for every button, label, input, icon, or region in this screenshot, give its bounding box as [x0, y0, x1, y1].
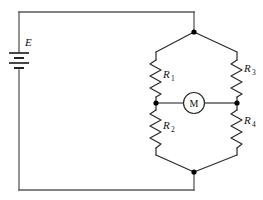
wire-apex-to-right-branch — [194, 32, 237, 52]
bridge-bottom-diagonals — [156, 155, 237, 172]
resistor-R3 — [231, 52, 242, 103]
resistor-R1 — [150, 52, 161, 103]
node-top-apex — [191, 29, 196, 34]
resistor-R1-label: R — [162, 68, 170, 80]
battery-label: E — [24, 36, 32, 48]
resistor-R2-zigzag — [150, 110, 161, 148]
bridge-top-diagonals — [156, 32, 237, 52]
meter-label: M — [190, 98, 199, 109]
wire-left-branch-to-bottom-apex — [156, 155, 194, 172]
resistor-R2-subscript: 2 — [171, 125, 175, 134]
resistor-R4-label: R — [243, 114, 251, 126]
resistor-R3-subscript: 3 — [252, 68, 256, 77]
resistor-R4 — [231, 103, 242, 155]
resistor-R3-zigzag — [231, 60, 242, 97]
node-bridge-left — [153, 100, 158, 105]
outer-loop-wires — [19, 12, 194, 190]
resistor-R4-zigzag — [231, 110, 242, 148]
resistor-R1-zigzag — [150, 60, 161, 97]
resistor-R4-subscript: 4 — [252, 120, 256, 129]
battery-symbol — [9, 53, 29, 68]
node-bottom-apex — [191, 169, 196, 174]
resistor-R1-subscript: 1 — [171, 74, 175, 83]
wire-right-branch-to-bottom-apex — [194, 155, 237, 172]
resistor-R3-label: R — [243, 62, 251, 74]
circuit-diagram-figure: E R 1 R 2 — [0, 0, 263, 200]
resistor-R2-label: R — [162, 119, 170, 131]
resistor-R2 — [150, 103, 161, 155]
node-bridge-right — [234, 100, 239, 105]
wire-apex-to-left-branch — [156, 32, 194, 52]
circuit-schematic: E R 1 R 2 — [0, 0, 263, 200]
